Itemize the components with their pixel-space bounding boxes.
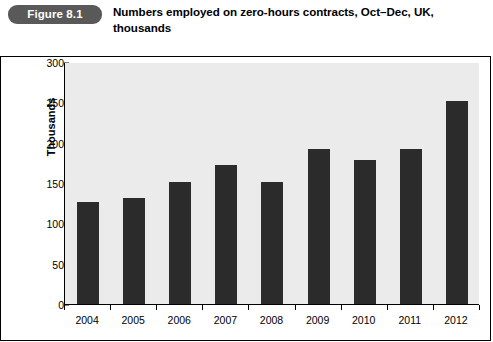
bar-slot [342, 63, 388, 304]
x-axis-tick-mark [156, 305, 157, 310]
x-axis-tick-mark [295, 305, 296, 310]
x-axis-tick-label: 2006 [156, 314, 202, 326]
bar [215, 165, 237, 304]
y-axis-tick-label: 50 [30, 259, 64, 270]
bar [400, 149, 422, 304]
x-axis-tick-label: 2010 [341, 314, 387, 326]
y-axis-tick-label: 200 [30, 138, 64, 149]
x-axis-tick-mark [387, 305, 388, 310]
plot-area [64, 63, 479, 305]
x-axis: 200420052006200720082009201020112012 [64, 305, 479, 335]
bar [308, 149, 330, 304]
chart-frame: Thousands 300250200150100500 20042005200… [0, 56, 491, 341]
x-axis-tick-mark [64, 305, 65, 310]
figure-number-badge: Figure 8.1 [8, 5, 102, 24]
x-axis-tick-label: 2008 [248, 314, 294, 326]
bar [123, 198, 145, 304]
x-axis-tick-label: 2005 [110, 314, 156, 326]
bar-slot [296, 63, 342, 304]
x-axis-tick-label: 2004 [64, 314, 110, 326]
y-axis-tick-label: 100 [30, 219, 64, 230]
x-axis-tick-mark [248, 305, 249, 310]
figure-title: Numbers employed on zero-hours contracts… [113, 4, 485, 35]
figure-header: Figure 8.1 Numbers employed on zero-hour… [0, 0, 493, 56]
bar-slot [203, 63, 249, 304]
y-axis-tick-label: 150 [30, 179, 64, 190]
bar-slot [249, 63, 295, 304]
bar-slot [388, 63, 434, 304]
y-axis-tick-label: 250 [30, 98, 64, 109]
x-axis-tick-label: 2011 [387, 314, 433, 326]
x-axis-tick-mark [341, 305, 342, 310]
y-axis: Thousands 300250200150100500 [19, 63, 64, 305]
x-axis-tick-mark [110, 305, 111, 310]
bar [446, 101, 468, 304]
bar-slot [111, 63, 157, 304]
bar [77, 202, 99, 304]
x-axis-tick-label: 2012 [433, 314, 479, 326]
bar [261, 182, 283, 304]
y-axis-title: Thousands [45, 62, 57, 192]
bar-slot [434, 63, 480, 304]
bar-slot [157, 63, 203, 304]
x-axis-tick-label: 2009 [295, 314, 341, 326]
bars-container [65, 63, 479, 304]
x-axis-tick-mark [433, 305, 434, 310]
x-axis-tick-mark [202, 305, 203, 310]
y-axis-tick-label: 0 [30, 300, 64, 311]
bar [354, 160, 376, 304]
bar [169, 182, 191, 304]
x-axis-tick-label: 2007 [202, 314, 248, 326]
x-axis-tick-mark [479, 305, 480, 310]
y-axis-tick-label: 300 [30, 58, 64, 69]
bar-slot [65, 63, 111, 304]
